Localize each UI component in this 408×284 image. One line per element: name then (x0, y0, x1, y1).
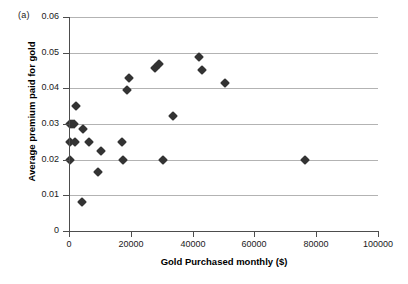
y-tick-mark (63, 160, 69, 161)
data-point (220, 78, 230, 88)
x-tick-mark (378, 232, 379, 237)
y-tick-label: 0.03 (0, 118, 59, 128)
y-tick-mark (63, 195, 69, 196)
x-axis-title: Gold Purchased monthly ($) (69, 256, 379, 267)
y-tick-label: 0.04 (0, 82, 59, 92)
y-tick-mark (63, 17, 69, 18)
data-point (77, 198, 87, 208)
plot-area (69, 17, 378, 231)
y-tick-mark (63, 88, 69, 89)
y-tick-label: 0 (0, 225, 59, 235)
x-tick-mark (316, 232, 317, 237)
data-point (93, 167, 103, 177)
y-axis-title: Average premium paid for gold (26, 12, 37, 212)
data-point (300, 155, 310, 165)
data-point (96, 146, 106, 156)
scatter-chart-figure: (a) Average premium paid for gold Gold P… (0, 0, 408, 284)
y-tick-mark (63, 53, 69, 54)
gridline-y (69, 124, 378, 125)
data-point (124, 73, 134, 83)
data-point (118, 137, 128, 147)
y-axis-line (69, 17, 70, 232)
y-tick-label: 0.05 (0, 47, 59, 57)
gridline-y (69, 17, 378, 18)
gridline-y (69, 160, 378, 161)
data-point (78, 124, 88, 134)
data-point (197, 65, 207, 75)
y-tick-label: 0.06 (0, 11, 59, 21)
y-tick-mark (63, 124, 69, 125)
data-point (70, 137, 80, 147)
data-point (71, 101, 81, 111)
data-point (118, 155, 128, 165)
x-tick-mark (131, 232, 132, 237)
gridline-y (69, 88, 378, 89)
y-tick-label: 0.01 (0, 189, 59, 199)
x-tick-mark (69, 232, 70, 237)
data-point (122, 85, 132, 95)
x-tick-label: 100000 (338, 239, 408, 249)
data-point (84, 137, 94, 147)
x-axis-line (69, 231, 379, 232)
x-tick-mark (254, 232, 255, 237)
data-point (168, 111, 178, 121)
y-tick-label: 0.02 (0, 154, 59, 164)
gridline-y (69, 195, 378, 196)
data-point (158, 155, 168, 165)
x-tick-mark (193, 232, 194, 237)
gridline-y (69, 53, 378, 54)
